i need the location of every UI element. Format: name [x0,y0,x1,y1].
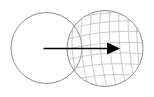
figure-container: Transformation of a plain circle into a … [0,0,154,97]
diagram-canvas [0,0,154,97]
